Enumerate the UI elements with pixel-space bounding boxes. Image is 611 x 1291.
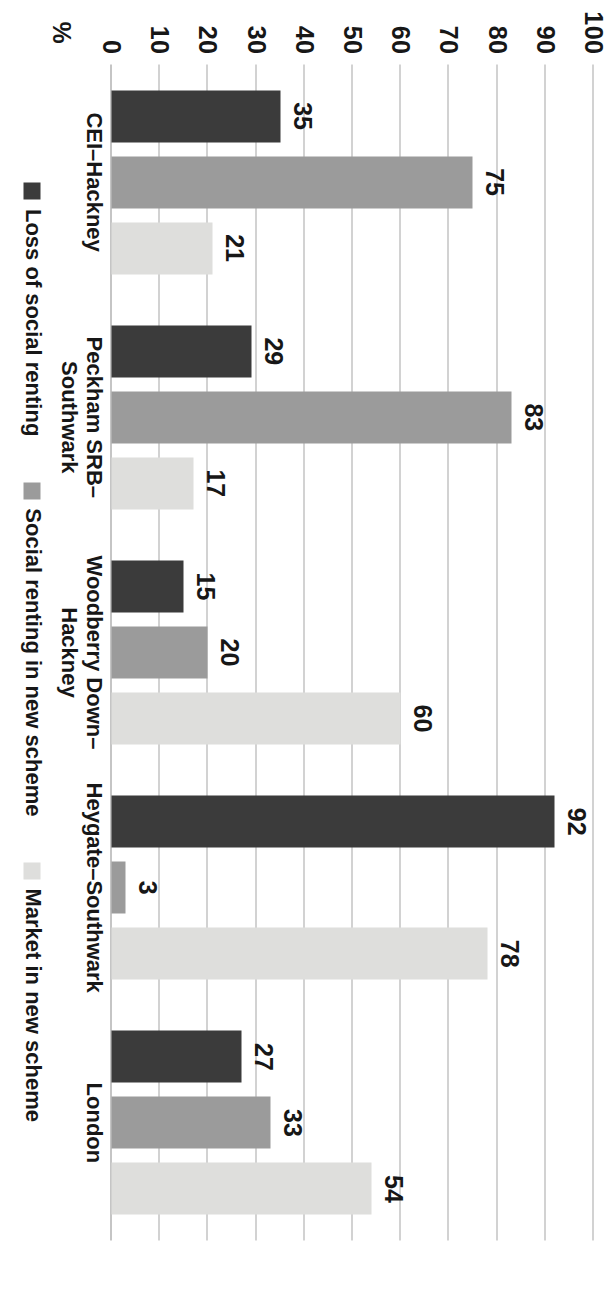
bar-0[interactable]: 29 [111, 325, 593, 377]
bar-2[interactable]: 78 [111, 927, 593, 979]
y-tick-label: 30 [241, 25, 270, 54]
bar-fill [111, 1096, 270, 1148]
bar-0[interactable]: 27 [111, 1030, 593, 1082]
legend-label: Market in new scheme [19, 888, 45, 1122]
bar-0[interactable]: 92 [111, 795, 593, 847]
legend-item[interactable]: Loss of social renting [19, 182, 45, 435]
chart-legend: Loss of social rentingSocial renting in … [19, 64, 45, 1240]
y-tick-label: 70 [434, 25, 463, 54]
bar-1[interactable]: 83 [111, 391, 593, 443]
chart-plot-area: 0102030405060708090100 % 357521298317152… [0, 0, 611, 1291]
legend-item[interactable]: Social renting in new scheme [19, 482, 45, 816]
y-tick-label: 80 [482, 25, 511, 54]
bar-fill [111, 1030, 241, 1082]
legend-swatch-icon [24, 182, 41, 199]
category-label: CEI–Hackney [56, 64, 105, 299]
bar-2[interactable]: 60 [111, 692, 593, 744]
legend-swatch-icon [24, 482, 41, 499]
bar-value-label: 35 [287, 102, 316, 130]
bar-group: 273354 [111, 1005, 593, 1240]
y-tick-label: 100 [579, 11, 608, 54]
bar-fill [111, 626, 207, 678]
rotated-chart-wrapper: 0102030405060708090100 % 357521298317152… [0, 0, 611, 1291]
bar-value-label: 75 [480, 168, 509, 196]
category-label: London [56, 1005, 105, 1240]
bar-fill [111, 90, 280, 142]
bar-1[interactable]: 75 [111, 156, 593, 208]
bar-fill [111, 560, 183, 612]
bar-value-label: 92 [561, 807, 590, 835]
legend-label: Social renting in new scheme [19, 508, 45, 816]
bar-value-label: 17 [200, 469, 229, 497]
bar-fill [111, 222, 212, 274]
category-label: Peckham SRB– Southwark [56, 299, 105, 534]
bar-value-label: 3 [132, 880, 161, 894]
bar-1[interactable]: 33 [111, 1096, 593, 1148]
legend-item[interactable]: Market in new scheme [19, 862, 45, 1122]
bar-value-label: 15 [190, 572, 219, 600]
bar-value-label: 54 [378, 1175, 407, 1203]
y-tick-label: 40 [289, 25, 318, 54]
bar-fill [111, 325, 251, 377]
bar-group: 298317 [111, 299, 593, 534]
bar-fill [111, 156, 473, 208]
bar-value-label: 29 [258, 337, 287, 365]
bar-2[interactable]: 17 [111, 457, 593, 509]
bar-0[interactable]: 35 [111, 90, 593, 142]
bar-value-label: 27 [248, 1043, 277, 1071]
bar-group: 92378 [111, 770, 593, 1005]
category-label: Woodberry Down– Hackney [56, 534, 105, 769]
bar-1[interactable]: 3 [111, 861, 593, 913]
bar-fill [111, 861, 125, 913]
y-tick-label: 20 [193, 25, 222, 54]
bar-groups: 35752129831715206092378273354 [111, 64, 593, 1240]
bar-1[interactable]: 20 [111, 626, 593, 678]
y-tick-label: 90 [530, 25, 559, 54]
y-tick-label: 60 [386, 25, 415, 54]
bar-fill [111, 692, 400, 744]
bar-2[interactable]: 54 [111, 1162, 593, 1214]
bar-value-label: 33 [277, 1109, 306, 1137]
category-labels: CEI–HackneyPeckham SRB– SouthwarkWoodber… [56, 64, 105, 1240]
bar-2[interactable]: 21 [111, 222, 593, 274]
bar-fill [111, 795, 554, 847]
bar-value-label: 60 [407, 704, 436, 732]
legend-swatch-icon [24, 862, 41, 879]
y-axis-title: % [46, 6, 75, 58]
bar-value-label: 21 [219, 234, 248, 262]
bar-group: 357521 [111, 64, 593, 299]
chart-canvas: 0102030405060708090100 % 357521298317152… [0, 0, 611, 1291]
bar-fill [111, 1162, 371, 1214]
y-tick-label: 0 [97, 40, 126, 54]
bar-fill [111, 927, 487, 979]
legend-label: Loss of social renting [19, 208, 45, 435]
y-tick-label: 10 [145, 25, 174, 54]
bar-value-label: 78 [494, 939, 523, 967]
y-axis-tick-labels: 0102030405060708090100 [111, 0, 593, 62]
bar-value-label: 83 [518, 403, 547, 431]
bar-group: 152060 [111, 534, 593, 769]
category-label: Heygate–Southwark [56, 770, 105, 1005]
bar-fill [111, 457, 193, 509]
bar-value-label: 20 [214, 638, 243, 666]
y-tick-label: 50 [338, 25, 367, 54]
bar-fill [111, 391, 511, 443]
bar-0[interactable]: 15 [111, 560, 593, 612]
